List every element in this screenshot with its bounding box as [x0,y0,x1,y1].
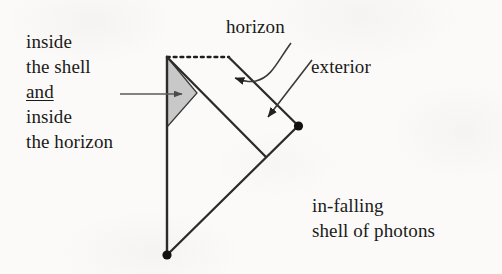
label-inside-shell-and-horizon: inside the shell and inside the horizon [26,29,113,154]
label-line-the-shell: the shell [26,54,113,79]
figure-canvas: inside the shell and inside the horizon … [0,0,502,274]
underlined-and: and [26,81,54,102]
label-line-in-falling: in-falling [312,193,435,218]
shell-emission-dot [294,121,303,130]
infalling-photon-shell-line [167,126,299,256]
label-infalling-shell-of-photons: in-falling shell of photons [312,193,435,243]
label-line-shell-of-photons: shell of photons [312,218,435,243]
arrow-to-exterior [268,60,312,117]
label-exterior: exterior [311,54,371,79]
label-line-the-horizon: the horizon [26,129,113,154]
label-line-inside-2: inside [26,104,113,129]
label-horizon: horizon [226,14,285,39]
shaded-region-inside-shell-and-horizon [167,57,197,127]
label-line-inside-1: inside [26,29,113,54]
arrow-to-horizon [235,43,291,82]
label-line-and-underlined: and [26,79,113,104]
origin-dot [162,250,171,259]
